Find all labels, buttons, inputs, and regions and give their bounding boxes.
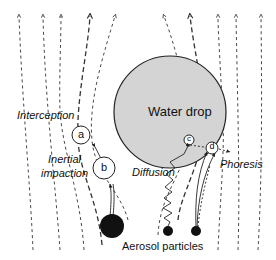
particle-a-label: a	[71, 128, 91, 140]
streamline-9	[236, 16, 239, 250]
particle-b-label: b	[94, 161, 114, 173]
inertial-label-line2: impaction	[41, 167, 88, 179]
small-aerosol-particle-diffusion	[163, 226, 173, 236]
large-aerosol-particle	[100, 214, 124, 238]
streamline-2	[43, 16, 60, 250]
diffusion-label: Diffusion	[132, 166, 175, 178]
particle-c-label: c	[179, 134, 199, 143]
small-aerosol-particle-phoresis	[191, 226, 201, 236]
interception-label: Interception	[17, 109, 74, 121]
aerosol-particles-label: Aerosol particles	[122, 240, 203, 252]
streamline-1	[19, 16, 33, 250]
phoresis-label: Phoresis	[220, 158, 263, 170]
aerosol-scavenging-diagram	[0, 0, 276, 260]
particle-d-label: d	[202, 141, 222, 151]
water-drop-label: Water drop	[148, 104, 212, 119]
inertial-label-line1: Inertial	[48, 153, 81, 165]
streamline-10	[258, 16, 262, 250]
